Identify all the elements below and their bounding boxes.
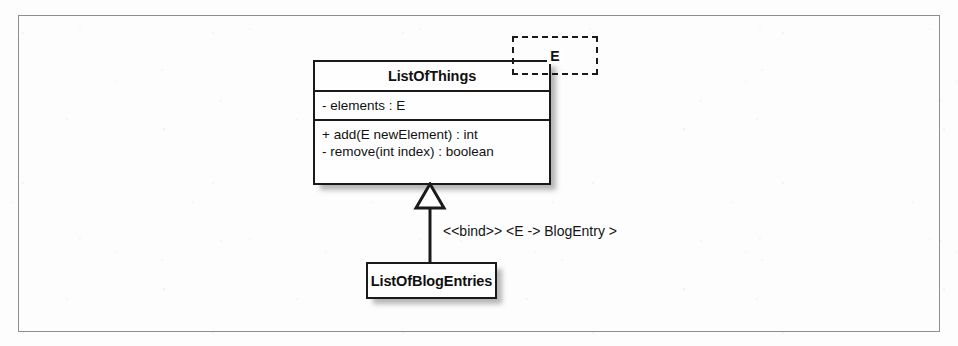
operation-remove: - remove(int index) : boolean	[322, 143, 549, 160]
attribute-elements: - elements : E	[322, 97, 405, 114]
operations-compartment: + add(E newElement) : int - remove(int i…	[315, 121, 549, 160]
bound-class-box: ListOfBlogEntries	[366, 262, 497, 299]
bind-stereotype-label: <<bind>> <E -> BlogEntry >	[443, 223, 617, 239]
operation-add: + add(E newElement) : int	[322, 126, 549, 143]
hollow-triangle-arrowhead-icon	[416, 184, 444, 208]
template-parameter-box: E	[512, 36, 598, 75]
generic-class-box: ListOfThings - elements : E + add(E newE…	[313, 60, 551, 185]
generalization-connector	[396, 182, 466, 266]
template-parameter-name: E	[547, 48, 562, 64]
diagram-page: ListOfThings - elements : E + add(E newE…	[0, 0, 958, 346]
attributes-compartment: - elements : E	[315, 92, 549, 121]
generic-class-name: ListOfThings	[388, 68, 476, 84]
bound-class-name: ListOfBlogEntries	[371, 273, 493, 289]
